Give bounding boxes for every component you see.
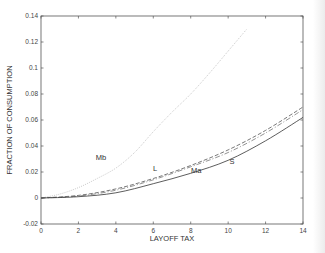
y-tick-label: 0: [34, 194, 38, 201]
y-tick-label: 0.04: [25, 142, 38, 149]
x-tick-label: 10: [225, 227, 233, 234]
y-axis-label: FRACTION OF CONSUMPTION: [5, 65, 14, 174]
x-tick-label: 2: [77, 227, 81, 234]
x-axis-label: LAYOFF TAX: [150, 234, 195, 243]
y-tick-label: 0.02: [25, 168, 38, 175]
y-tick-label: -0.02: [23, 220, 38, 227]
y-tick-label: 0.08: [25, 90, 38, 97]
y-tick-label: 0.14: [25, 12, 38, 19]
page-edge-shadow: [313, 0, 325, 253]
curve-label-mb: Mb: [96, 153, 106, 162]
x-tick-label: 8: [189, 227, 193, 234]
x-tick-label: 6: [151, 227, 155, 234]
y-tick-label: 0.06: [25, 116, 38, 123]
x-tick-label: 12: [262, 227, 270, 234]
y-tick-label: 0.12: [25, 38, 38, 45]
y-tick-label: 0.1: [29, 64, 38, 71]
curve-label-s: S: [229, 157, 234, 166]
x-tick-label: 14: [299, 227, 307, 234]
x-tick-label: 4: [114, 227, 118, 234]
curve-label-ma: Ma: [191, 166, 202, 175]
plot-area: [41, 16, 303, 224]
x-tick-label: 0: [39, 227, 43, 234]
line-chart: 02468101214 -0.0200.020.040.060.080.10.1…: [0, 0, 325, 253]
curve-label-l: L: [153, 164, 157, 173]
